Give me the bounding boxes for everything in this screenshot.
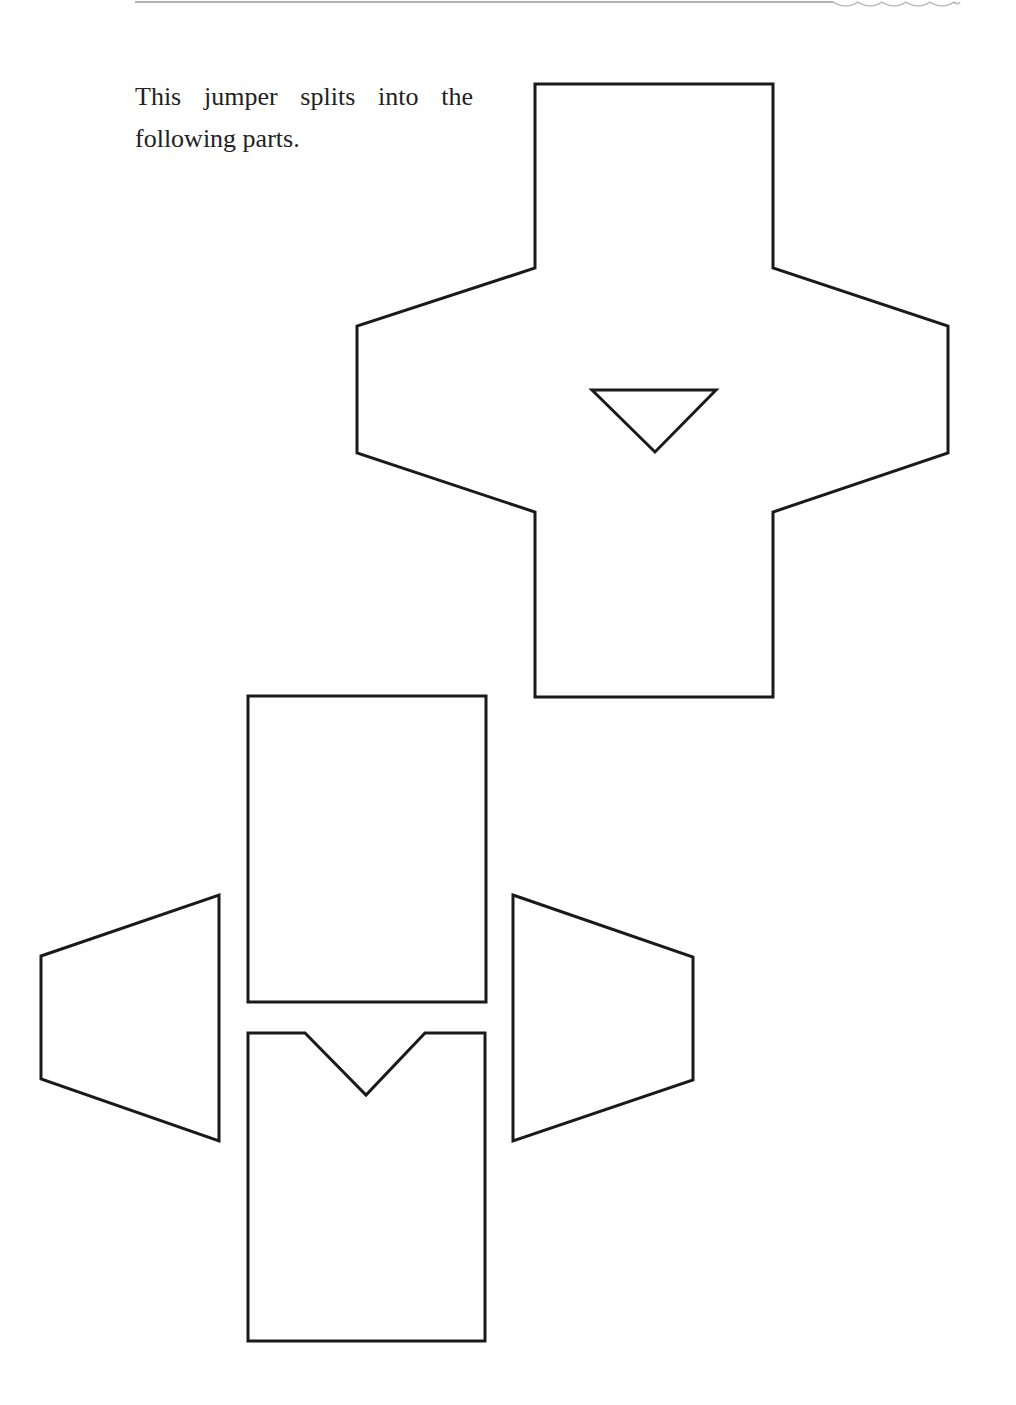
right-sleeve-piece: [513, 895, 693, 1141]
jumper-diagram: [0, 0, 1016, 1405]
left-sleeve-piece: [41, 895, 219, 1141]
assembled-jumper: [357, 84, 948, 697]
front-piece: [248, 1033, 485, 1341]
back-piece: [248, 696, 486, 1002]
document-page: This jumper splits into the following pa…: [0, 0, 1016, 1405]
jumper-parts: [41, 696, 693, 1341]
